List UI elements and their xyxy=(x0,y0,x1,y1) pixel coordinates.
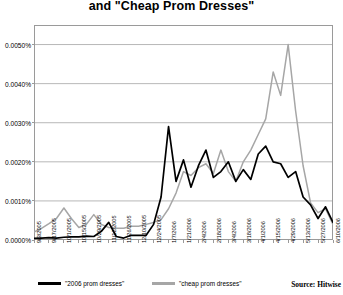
x-axis-tick-label: 4/1/2006 xyxy=(260,221,266,243)
legend-label-series-2: "cheap prom dresses" xyxy=(179,280,241,287)
x-axis-tick-label: 12/10/2005 xyxy=(141,215,147,243)
y-axis-tick-label: 0.0040% xyxy=(0,80,31,87)
y-axis-tick-label: 0.0010% xyxy=(0,197,31,204)
x-axis-tick-label: 10/29/2005 xyxy=(96,215,102,243)
x-axis-tick-mark xyxy=(288,240,289,243)
x-axis-tick-mark xyxy=(273,240,274,243)
x-axis-tick-label: 3/4/2006 xyxy=(231,221,237,243)
plot-lines xyxy=(34,25,333,240)
x-axis-tick-label: 6/10/2006 xyxy=(335,218,341,243)
x-axis-tick-label: 4/15/2006 xyxy=(275,218,281,243)
x-axis-tick-mark xyxy=(138,240,139,243)
data-series-line xyxy=(34,127,333,239)
x-axis-tick-label: 11/12/2005 xyxy=(111,215,117,243)
x-axis-tick-label: 3/18/2006 xyxy=(246,218,252,243)
x-axis-tick-mark xyxy=(48,240,49,243)
y-axis-tick-label: 0.0030% xyxy=(0,119,31,126)
x-axis-tick-mark xyxy=(318,240,319,243)
y-axis-tick-label: 0.0050% xyxy=(0,41,31,48)
x-axis-tick-label: 9/3/2005 xyxy=(36,221,42,243)
chart-title: and "Cheap Prom Dresses" xyxy=(0,0,343,13)
x-axis-tick-label: 10/15/2005 xyxy=(81,215,87,243)
x-axis-tick-mark xyxy=(34,240,35,243)
legend-swatch-gray-icon xyxy=(152,282,175,284)
x-axis-tick-label: 1/7/2006 xyxy=(171,221,177,243)
x-axis-tick-label: 1/21/2006 xyxy=(186,218,192,243)
legend-item-series-2: "cheap prom dresses" xyxy=(152,280,241,287)
x-axis-tick-label: 5/13/2006 xyxy=(305,218,311,243)
prom-dresses-line-chart: and "Cheap Prom Dresses" 0.0000%0.0010%0… xyxy=(0,0,343,295)
x-axis-tick-mark xyxy=(243,240,244,243)
x-axis-tick-mark xyxy=(228,240,229,243)
source-note: Source: Hitwise xyxy=(291,280,341,289)
x-axis-tick-mark xyxy=(153,240,154,243)
x-axis-tick-mark xyxy=(333,240,334,243)
x-axis-tick-mark xyxy=(63,240,64,243)
x-axis-tick-mark xyxy=(108,240,109,243)
x-axis-tick-label: 2/18/2006 xyxy=(216,218,222,243)
x-axis-tick-label: 10/1/2005 xyxy=(66,218,72,243)
x-axis-tick-label: 12/24/2005 xyxy=(156,215,162,243)
x-axis-tick-mark xyxy=(93,240,94,243)
x-axis-tick-mark xyxy=(168,240,169,243)
x-axis-tick-label: 2/4/2006 xyxy=(201,221,207,243)
legend-swatch-black-icon xyxy=(38,282,61,284)
y-axis-tick-label: 0.0020% xyxy=(0,158,31,165)
x-axis-tick-mark xyxy=(213,240,214,243)
x-axis-tick-mark xyxy=(303,240,304,243)
y-axis-tick-label: 0.0000% xyxy=(0,237,31,244)
legend-label-series-1: "2006 prom dresses" xyxy=(65,280,124,287)
x-axis-tick-mark xyxy=(78,240,79,243)
x-axis-tick-mark xyxy=(123,240,124,243)
x-axis-tick-label: 4/29/2006 xyxy=(290,218,296,243)
data-series-line xyxy=(34,45,333,233)
x-axis-tick-label: 11/26/2005 xyxy=(126,215,132,243)
x-axis-tick-mark xyxy=(183,240,184,243)
legend-item-series-1: "2006 prom dresses" xyxy=(38,280,124,287)
chart-legend: "2006 prom dresses" "cheap prom dresses" xyxy=(34,279,333,293)
x-axis-tick-mark xyxy=(258,240,259,243)
x-axis-tick-label: 5/27/2006 xyxy=(320,218,326,243)
x-axis-tick-mark xyxy=(198,240,199,243)
x-axis-tick-label: 9/17/2005 xyxy=(51,218,57,243)
